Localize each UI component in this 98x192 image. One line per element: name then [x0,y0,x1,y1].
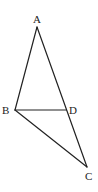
segments-group [15,27,87,167]
labels-group: A B D C [2,13,92,182]
vertex-label-d: D [69,104,77,116]
segment-AB [15,27,37,110]
vertex-label-a: A [33,13,41,25]
segment-AC [37,27,87,167]
geometry-diagram: A B D C [0,0,98,192]
vertex-label-c: C [85,170,92,182]
vertex-label-b: B [2,104,9,116]
